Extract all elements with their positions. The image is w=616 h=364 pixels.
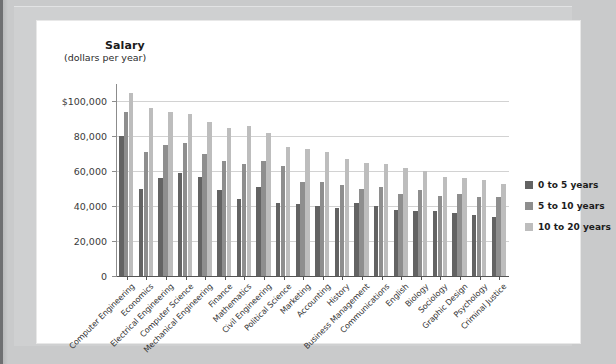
bar-group [431, 84, 451, 276]
bar [168, 112, 172, 276]
bar-group [352, 84, 372, 276]
x-tick-mark [480, 276, 481, 280]
bar [418, 190, 422, 276]
bar-group [215, 84, 235, 276]
plot-area: $100,00080,00060,00040,00020,0000Compute… [117, 84, 509, 276]
x-tick-mark [205, 276, 206, 280]
x-tick-mark [362, 276, 363, 280]
window-edge-strip [0, 0, 8, 364]
legend-item[interactable]: 0 to 5 years [525, 180, 616, 190]
bar [315, 206, 319, 276]
bar [202, 154, 206, 276]
bar [247, 126, 251, 276]
x-tick-mark [264, 276, 265, 280]
legend-item[interactable]: 10 to 20 years [525, 222, 616, 232]
bar [325, 152, 329, 276]
bar [496, 197, 500, 276]
x-tick-mark [186, 276, 187, 280]
bar [144, 152, 148, 276]
bar [443, 177, 447, 276]
chart-subtitle: (dollars per year) [64, 52, 146, 63]
bar-group [254, 84, 274, 276]
bar [452, 213, 456, 276]
bar-group [235, 84, 255, 276]
bar [163, 145, 167, 276]
bar-group [117, 84, 137, 276]
bar [477, 197, 481, 276]
bar [242, 164, 246, 276]
legend-item-label: 5 to 10 years [538, 201, 605, 211]
x-tick-mark [421, 276, 422, 280]
bar [227, 128, 231, 276]
bar [457, 194, 461, 276]
y-tick-label: 60,000 [47, 166, 107, 177]
bar-group [450, 84, 470, 276]
x-tick-mark [166, 276, 167, 280]
bar-group [372, 84, 392, 276]
bar [354, 203, 358, 276]
x-tick-mark [499, 276, 500, 280]
bar-group [156, 84, 176, 276]
bar [207, 122, 211, 276]
y-tick-label: 80,000 [47, 131, 107, 142]
bar [281, 166, 285, 276]
bar [482, 180, 486, 276]
bar-group [489, 84, 509, 276]
bar-group [391, 84, 411, 276]
bar [119, 136, 123, 276]
bar [423, 171, 427, 276]
y-tick-label: $100,000 [47, 96, 107, 107]
bar [158, 178, 162, 276]
bar-group [313, 84, 333, 276]
y-tick-label: 40,000 [47, 201, 107, 212]
y-tick-label: 20,000 [47, 236, 107, 247]
bar [345, 159, 349, 276]
legend-swatch-icon [525, 202, 533, 210]
x-tick-mark [401, 276, 402, 280]
x-tick-mark [284, 276, 285, 280]
bar [300, 182, 304, 276]
bar [286, 147, 290, 276]
bar [266, 133, 270, 276]
legend-swatch-icon [525, 223, 533, 231]
bar [237, 199, 241, 276]
chart-legend: 0 to 5 years5 to 10 years10 to 20 years [525, 180, 616, 243]
legend-item-label: 0 to 5 years [538, 180, 598, 190]
x-tick-mark [323, 276, 324, 280]
x-tick-mark [382, 276, 383, 280]
x-tick-mark [127, 276, 128, 280]
y-tick-mark [112, 276, 117, 277]
bar-group [176, 84, 196, 276]
x-tick-mark [440, 276, 441, 280]
legend-swatch-icon [525, 181, 533, 189]
bar [217, 190, 221, 276]
bar [183, 143, 187, 276]
bar [124, 112, 128, 276]
bar [359, 189, 363, 276]
bar [320, 182, 324, 276]
bar [276, 203, 280, 276]
x-tick-mark [225, 276, 226, 280]
bar [129, 93, 133, 276]
bar [438, 196, 442, 276]
bar [379, 187, 383, 276]
bar [222, 161, 226, 276]
bar [403, 168, 407, 276]
bar [501, 184, 505, 277]
bar [433, 211, 437, 276]
bar [340, 185, 344, 276]
bar [413, 211, 417, 276]
bar-group [137, 84, 157, 276]
bar [305, 149, 309, 276]
chart-outer-frame: Salary (dollars per year) $100,00080,000… [14, 6, 572, 346]
bar-group [470, 84, 490, 276]
bar [394, 210, 398, 276]
bar [492, 217, 496, 276]
bar-group [274, 84, 294, 276]
bar [188, 114, 192, 276]
x-tick-mark [460, 276, 461, 280]
bar [198, 177, 202, 276]
legend-item[interactable]: 5 to 10 years [525, 201, 616, 211]
bar-group [293, 84, 313, 276]
